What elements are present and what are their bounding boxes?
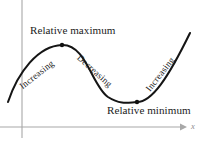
relative-maximum-point bbox=[60, 43, 64, 47]
relative-minimum-label: Relative minimum bbox=[107, 105, 191, 116]
x-axis-label: x bbox=[191, 122, 195, 131]
relative-maximum-label: Relative maximum bbox=[30, 25, 116, 36]
x-axis-arrowhead bbox=[180, 124, 187, 131]
relative-extrema-figure: Relative maximum Relative minimum Increa… bbox=[0, 0, 201, 143]
